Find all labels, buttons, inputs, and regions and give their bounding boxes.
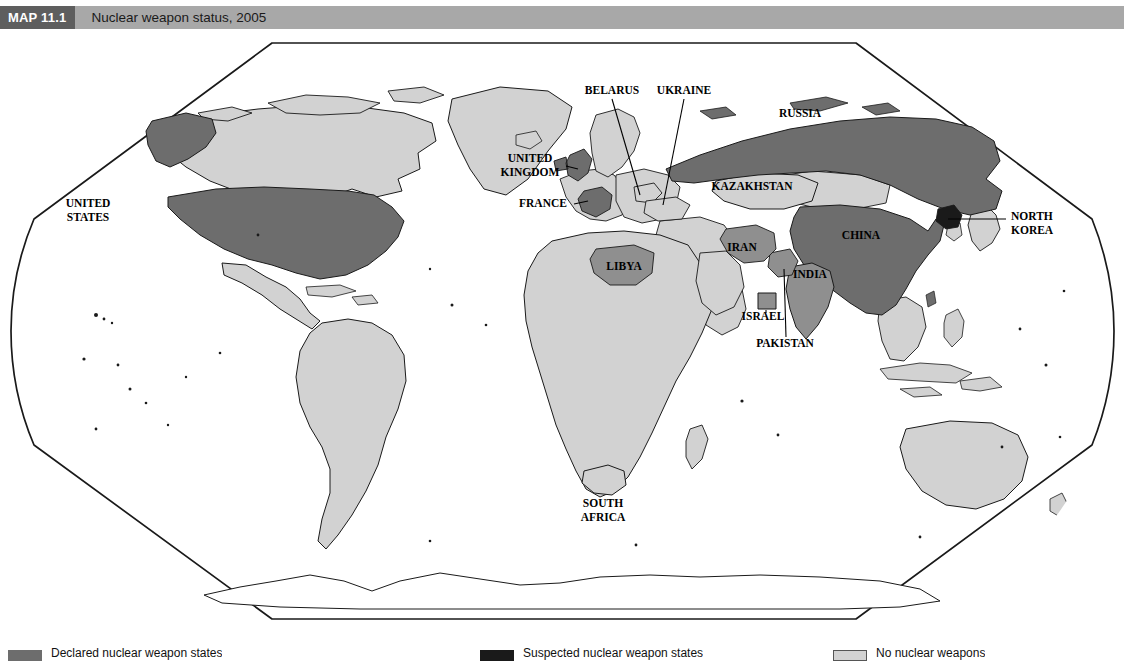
country-ukraine [644, 197, 690, 221]
label-kazakhstan: KAZAKHSTAN [712, 180, 794, 192]
legend-swatch-none [833, 650, 867, 661]
label-china: CHINA [842, 229, 881, 241]
legend-label-suspected: Suspected nuclear weapon states [523, 646, 703, 660]
label-pakistan: PAKISTAN [756, 337, 814, 349]
map-title: Nuclear weapon status, 2005 [75, 6, 266, 29]
label-ukraine: UKRAINE [657, 84, 712, 96]
label-israel: ISRAEL [742, 310, 785, 322]
legend-entry-declared: Declared nuclear weapon states [8, 646, 222, 660]
legend-entry-none: No nuclear weapons [833, 646, 985, 660]
label-russia: RUSSIA [779, 107, 822, 119]
map-legend: Declared nuclear weapon states Suspected… [0, 646, 1124, 660]
country-israel-marker [758, 293, 776, 309]
label-iran: IRAN [727, 241, 757, 253]
world-map[interactable]: UNITEDSTATES UNITEDKINGDOM FRANCE BELARU… [0, 29, 1124, 629]
legend-swatch-declared [8, 650, 42, 661]
label-libya: LIBYA [606, 260, 642, 272]
label-france: FRANCE [519, 197, 567, 209]
legend-entry-suspected: Suspected nuclear weapon states [480, 646, 703, 660]
legend-swatch-suspected [480, 650, 514, 661]
legend-label-declared: Declared nuclear weapon states [51, 646, 222, 660]
label-india: INDIA [793, 268, 828, 280]
map-header-bar: MAP 11.1 Nuclear weapon status, 2005 [0, 6, 1124, 29]
legend-label-none: No nuclear weapons [876, 646, 985, 660]
map-number-badge: MAP 11.1 [0, 6, 75, 29]
label-belarus: BELARUS [585, 84, 639, 96]
